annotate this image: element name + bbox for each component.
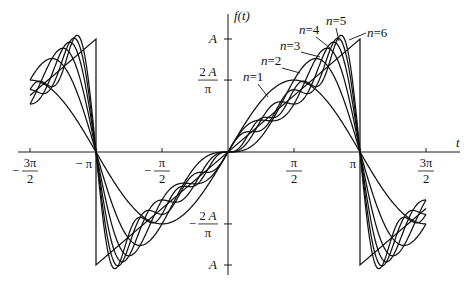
x-ticks: 3π2−− ππ2−π2π3π2 xyxy=(12,148,434,186)
svg-text:2 A: 2 A xyxy=(199,65,216,79)
x-tick-label: π2− xyxy=(144,156,170,186)
svg-text:−: − xyxy=(144,164,151,178)
leader-line xyxy=(316,37,330,48)
x-axis-label: t xyxy=(456,135,460,150)
svg-text:2 A: 2 A xyxy=(199,209,216,223)
series-label-n1: n=1 xyxy=(243,69,268,97)
svg-text:π: π xyxy=(291,156,298,170)
svg-text:2: 2 xyxy=(423,172,429,186)
series-label-n2: n=2 xyxy=(261,53,300,73)
svg-text:π: π xyxy=(159,156,166,170)
svg-text:n=5: n=5 xyxy=(326,13,346,28)
y-axis-label: f(t) xyxy=(234,8,250,23)
svg-text:n=4: n=4 xyxy=(299,22,320,37)
fourier-sawtooth-chart: t f(t) 3π2−− ππ2−π2π3π2 A2 Aπ2 Aπ−A n=1n… xyxy=(0,0,473,283)
svg-text:−: − xyxy=(189,217,196,231)
svg-text:π: π xyxy=(205,82,212,96)
x-tick-label: 3π2 xyxy=(418,156,434,186)
svg-text:2: 2 xyxy=(27,172,33,186)
x-tick-label: − π xyxy=(76,157,93,171)
leader-line xyxy=(258,84,268,97)
x-tick-label: 3π2− xyxy=(12,156,38,186)
series-labels: n=1n=2n=3n=4n=5n=6 xyxy=(243,13,388,97)
series-label-n6: n=6 xyxy=(349,25,388,40)
y-tick-label: 2 Aπ xyxy=(198,65,218,96)
svg-text:n=2: n=2 xyxy=(261,53,281,68)
x-tick-label: π xyxy=(350,157,357,171)
svg-text:3π: 3π xyxy=(420,156,433,170)
y-tick-label: A xyxy=(208,31,217,46)
leader-line xyxy=(301,52,320,57)
axes: t f(t) xyxy=(18,8,460,275)
svg-text:n=3: n=3 xyxy=(280,38,300,53)
y-tick-label: 2 Aπ− xyxy=(189,209,218,240)
leader-line xyxy=(349,33,366,40)
series-label-n3: n=3 xyxy=(280,38,320,57)
leader-line xyxy=(282,68,300,73)
svg-text:n=1: n=1 xyxy=(243,69,263,84)
svg-text:3π: 3π xyxy=(24,156,37,170)
svg-text:π: π xyxy=(205,226,212,240)
svg-text:−: − xyxy=(12,164,19,178)
x-tick-label: π2 xyxy=(286,156,302,186)
svg-text:2: 2 xyxy=(159,172,165,186)
svg-text:n=6: n=6 xyxy=(367,25,388,40)
y-tick-label: A xyxy=(208,257,217,272)
svg-text:2: 2 xyxy=(291,172,297,186)
